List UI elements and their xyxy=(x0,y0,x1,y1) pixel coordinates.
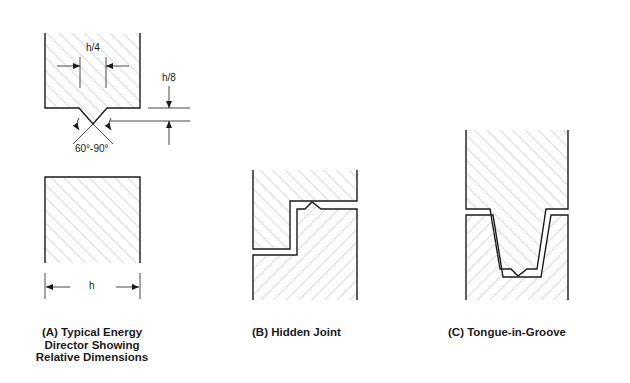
width-dimension-label: h/4 xyxy=(86,42,100,53)
caption-line: Director Showing xyxy=(22,339,162,352)
caption-line: Relative Dimensions xyxy=(22,351,162,364)
caption-figure-b: (B) Hidden Joint xyxy=(252,326,341,339)
figure-b-hidden-joint xyxy=(253,170,357,300)
base-dimension-label: h xyxy=(89,280,95,291)
lower-part xyxy=(45,177,140,263)
angle-label: 60°-90° xyxy=(75,143,109,154)
caption-figure-a: (A) Typical Energy Director Showing Rela… xyxy=(22,326,162,364)
caption-figure-c: (C) Tongue-in-Groove xyxy=(448,326,566,339)
caption-line: (A) Typical Energy xyxy=(22,326,162,339)
caption-line: (C) Tongue-in-Groove xyxy=(448,326,566,339)
height-dimension-label: h/8 xyxy=(162,72,176,83)
figure-c-tongue-in-groove xyxy=(466,130,568,300)
caption-line: (B) Hidden Joint xyxy=(252,326,341,339)
